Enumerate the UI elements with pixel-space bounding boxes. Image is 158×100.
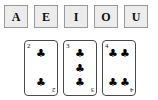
playing-card-three-of-clubs[interactable]: 3 ♣ ♣ ♣ 3 xyxy=(63,40,97,96)
card-rank-bottom-right: 4 xyxy=(130,86,134,93)
vowel-tile-row: A E I O U xyxy=(4,5,148,28)
club-suit-icon: ♣ xyxy=(120,48,130,59)
club-suit-icon: ♣ xyxy=(108,48,118,59)
letter-tile-o[interactable]: O xyxy=(94,5,118,28)
card-pip-area: ♣ ♣ ♣ xyxy=(68,48,92,88)
letter-tile-a[interactable]: A xyxy=(4,5,28,28)
club-suit-icon: ♣ xyxy=(108,77,118,88)
card-pip-row: ♣ xyxy=(68,48,92,59)
club-suit-icon: ♣ xyxy=(120,77,130,88)
club-suit-icon: ♣ xyxy=(75,77,85,88)
playing-card-four-of-clubs[interactable]: 4 ♣ ♣ ♣ ♣ 4 xyxy=(102,40,136,96)
playing-card-row: 2 ♣ ♣ 2 3 ♣ ♣ ♣ 3 4 xyxy=(24,40,136,96)
letter-tile-i[interactable]: I xyxy=(64,5,88,28)
card-pip-row: ♣ xyxy=(29,77,53,88)
card-pip-area: ♣ ♣ ♣ ♣ xyxy=(107,48,131,88)
club-suit-icon: ♣ xyxy=(75,48,85,59)
club-suit-icon: ♣ xyxy=(36,48,46,59)
club-suit-icon: ♣ xyxy=(36,77,46,88)
card-pip-row: ♣ ♣ xyxy=(107,77,131,88)
letter-tile-label: A xyxy=(12,11,21,23)
card-pip-row: ♣ xyxy=(29,48,53,59)
card-pip-area: ♣ ♣ xyxy=(29,48,53,88)
club-suit-icon: ♣ xyxy=(75,63,85,74)
playing-card-two-of-clubs[interactable]: 2 ♣ ♣ 2 xyxy=(24,40,58,96)
card-pip-row: ♣ ♣ xyxy=(107,48,131,59)
letter-tile-label: U xyxy=(132,11,141,23)
letter-tile-label: I xyxy=(74,11,79,23)
letter-tile-label: E xyxy=(42,11,50,23)
card-rank-bottom-right: 2 xyxy=(52,86,56,93)
card-rank-bottom-right: 3 xyxy=(91,86,95,93)
letter-tile-label: O xyxy=(101,11,110,23)
card-pip-row: ♣ xyxy=(68,77,92,88)
letter-tile-e[interactable]: E xyxy=(34,5,58,28)
letter-tile-u[interactable]: U xyxy=(124,5,148,28)
card-pip-row: ♣ xyxy=(68,63,92,74)
